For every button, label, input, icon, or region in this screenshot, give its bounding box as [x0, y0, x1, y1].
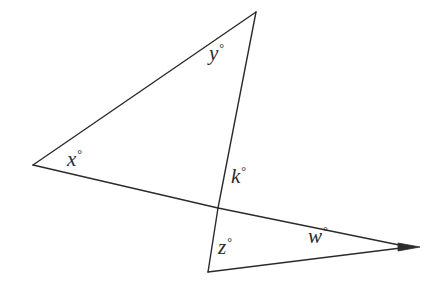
degree-symbol-y: °: [219, 41, 224, 55]
edge-bottom-to-right-tip: [208, 247, 409, 272]
angle-label-x-text: x: [67, 147, 76, 171]
angle-label-y: y°: [209, 42, 224, 64]
degree-symbol-k: °: [241, 164, 246, 178]
angle-label-k-text: k: [231, 164, 240, 188]
degree-symbol-z: °: [227, 235, 232, 249]
geometry-figure: x° y° k° z° w°: [0, 0, 429, 293]
angle-label-x: x°: [67, 148, 82, 170]
degree-symbol-x: °: [77, 147, 82, 161]
degree-symbol-w: °: [323, 224, 328, 238]
right-arrow-head-icon: [398, 243, 420, 251]
edge-left-to-intersection: [33, 165, 218, 208]
edge-intersection-to-bottom-vertex: [208, 208, 218, 272]
angle-label-y-text: y: [209, 41, 218, 65]
angle-label-z-text: z: [218, 235, 226, 259]
angle-label-w: w°: [308, 225, 328, 247]
edge-left-to-apex: [33, 12, 256, 165]
angle-label-w-text: w: [308, 224, 322, 248]
angle-label-k: k°: [231, 165, 246, 187]
angle-label-z: z°: [218, 236, 232, 258]
